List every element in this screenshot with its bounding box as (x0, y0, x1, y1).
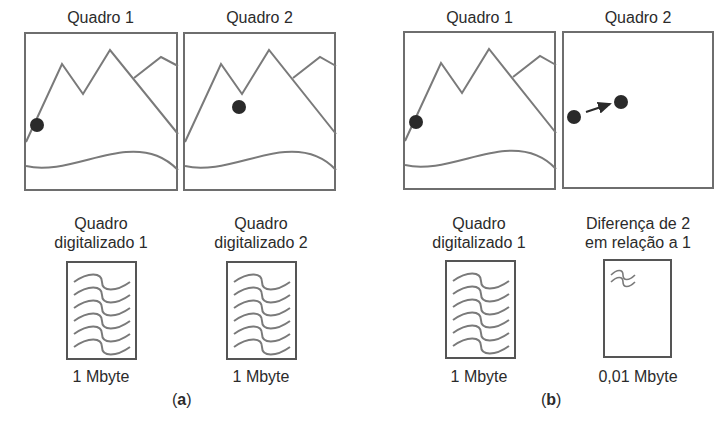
panel-a-doc2-size: 1 Mbyte (200, 367, 322, 386)
wave-line (453, 339, 509, 354)
panel-a-doc1-size: 1 Mbyte (40, 367, 162, 386)
panel-a-doc1 (66, 261, 137, 360)
panel-b-doc2 (603, 259, 672, 358)
ground-wave (185, 152, 336, 170)
motion-difference-scene (564, 33, 716, 191)
wave-line (453, 300, 509, 315)
panel-b-frame2 (562, 31, 714, 189)
mountain-ridge (405, 49, 556, 141)
caption-letter: b (546, 391, 556, 408)
wave-line (74, 314, 130, 329)
ball (30, 118, 44, 132)
wave-line (74, 340, 130, 355)
wave-line (234, 340, 290, 355)
panel-b-doc2-title: Diferença de 2 em relação a 1 (574, 214, 702, 252)
doc-title-line2: digitalizado 1 (40, 233, 162, 252)
mountain-ridge-back (134, 57, 178, 78)
wave-line (234, 288, 290, 303)
ball-previous (567, 110, 581, 124)
landscape-scene (185, 34, 338, 193)
mountain-ridge (185, 50, 336, 142)
wave-line (453, 313, 509, 328)
wave-line (453, 287, 509, 302)
panel-b-frame2-title: Quadro 2 (562, 8, 714, 27)
panel-a-frame2 (183, 32, 336, 191)
doc-title-line1: Quadro (418, 214, 540, 233)
motion-arrow (586, 104, 610, 112)
ground-wave (26, 152, 178, 170)
landscape-scene (405, 33, 558, 192)
panel-b-caption: (b) (541, 391, 561, 409)
mountain-ridge (26, 50, 178, 142)
panel-b-frame1 (403, 31, 556, 190)
digitized-data-waves (447, 262, 518, 361)
doc-title-line1: Diferença de 2 (574, 214, 702, 233)
digitized-data-waves (68, 263, 139, 362)
panel-b-frame1-title: Quadro 1 (403, 8, 556, 27)
panel-a-doc2-title: Quadro digitalizado 2 (200, 214, 322, 252)
mountain-ridge-back (293, 57, 336, 78)
wave-line (74, 301, 130, 316)
wave-line (234, 327, 290, 342)
wave-line (234, 275, 290, 290)
wave-line (234, 314, 290, 329)
landscape-scene (26, 34, 180, 193)
caption-paren: ) (556, 391, 561, 408)
panel-a-frame2-title: Quadro 2 (183, 8, 336, 27)
wave-line (234, 301, 290, 316)
panel-b-doc2-size: 0,01 Mbyte (576, 367, 700, 386)
ball (409, 115, 423, 129)
wave-line (453, 274, 509, 289)
ground-wave (405, 151, 556, 169)
caption-letter: a (177, 391, 186, 408)
doc-title-line2: digitalizado 2 (200, 233, 322, 252)
wave-line (74, 288, 130, 303)
panel-a-caption: (a) (172, 391, 192, 409)
wave-line (74, 327, 130, 342)
doc-title-line1: Quadro (200, 214, 322, 233)
digitized-data-waves (228, 263, 299, 362)
panel-a-frame1 (24, 32, 178, 191)
doc-title-line1: Quadro (40, 214, 162, 233)
panel-b-doc1-size: 1 Mbyte (418, 367, 540, 386)
mountain-ridge-back (513, 56, 556, 77)
panel-a-doc2 (226, 261, 297, 360)
doc-title-line2: em relação a 1 (574, 233, 702, 252)
wave-line (453, 326, 509, 341)
panel-b-doc1-title: Quadro digitalizado 1 (418, 214, 540, 252)
doc-title-line2: digitalizado 1 (418, 233, 540, 252)
panel-b-doc1 (445, 260, 516, 359)
difference-data-waves (605, 261, 674, 360)
wave-line (74, 275, 130, 290)
ball (232, 100, 246, 114)
panel-a-doc1-title: Quadro digitalizado 1 (40, 214, 162, 252)
panel-a-frame1-title: Quadro 1 (24, 8, 177, 27)
ball-current (614, 95, 628, 109)
caption-paren: ) (186, 391, 191, 408)
